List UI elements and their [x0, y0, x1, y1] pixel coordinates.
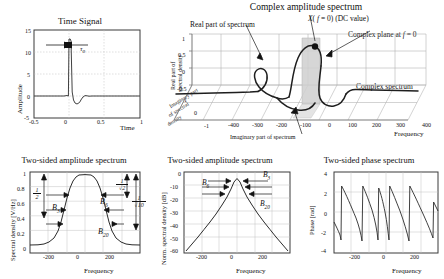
phase-ylabel: Phase [rad] — [308, 206, 315, 235]
amp-db-ylabel: Norm. spectral density [dB] — [160, 192, 167, 265]
time-signal-ytick: 5 — [27, 72, 30, 78]
amp-linear-ylabel: Spectral density [V/Hz] — [9, 199, 16, 261]
amp-db-ytick: -10 — [170, 184, 178, 190]
label-b20-db: B20 — [260, 199, 270, 210]
amp-linear-ytick: 0.4 — [17, 216, 25, 222]
complex-spectrum-plot — [174, 32, 444, 137]
time-signal-xtick: -0.5 — [29, 119, 39, 125]
panel-time-signal: Time Signal Amplitude Time 15 10 5 0 -5 … — [0, 14, 160, 140]
phase-ytick: 2 — [324, 191, 327, 197]
amp-linear-ytick: 0.2 — [17, 231, 25, 237]
time-signal-xtick: 0 — [64, 119, 67, 125]
tau-annotation — [46, 40, 96, 56]
amp-linear-ytick: 0 — [23, 246, 26, 252]
amp-linear-ytick: 1 — [23, 171, 26, 177]
label-b6-db: B6 — [202, 178, 209, 189]
amp-db-ytick: -30 — [170, 210, 178, 216]
phase-xtick: -200 — [349, 254, 360, 260]
amp-db-xlabel: Frequency — [236, 267, 266, 275]
panel-complex-spectrum: Complex amplitude spectrum Real part of … — [166, 0, 444, 146]
label-b3-db: B3 — [263, 170, 270, 181]
amp-db-xtick: 0 — [230, 254, 233, 260]
label-real-part: Real part of spectrum — [190, 20, 255, 29]
amp-linear-xtick: -200 — [43, 254, 54, 260]
phase-plot — [334, 172, 438, 253]
phase-ytick: -4 — [321, 248, 326, 254]
amp-linear-ytick: 0.6 — [17, 201, 25, 207]
amp-linear-ytick: 0.8 — [17, 186, 25, 192]
phase-xlabel: Frequency — [392, 267, 422, 275]
amp-db-xtick: -200 — [196, 254, 207, 260]
amp-db-ytick: -20 — [170, 197, 178, 203]
label-dc-value: X( f = 0) (DC value) — [308, 14, 369, 23]
time-signal-xtick: 0.5 — [97, 119, 105, 125]
complex-spectrum-title: Complex amplitude spectrum — [226, 2, 386, 12]
amp-db-plot — [184, 172, 290, 253]
label-half-fraction: 1 2 — [33, 187, 41, 200]
label-b6: B6 — [100, 197, 108, 208]
phase-ytick: 4 — [324, 171, 327, 177]
phase-title: Two-sided phase spectrum — [296, 155, 442, 165]
phase-ytick: -2 — [321, 230, 326, 236]
label-b3-level-fraction: 1 √2 — [116, 178, 128, 191]
amp-db-ytick: -60 — [170, 248, 178, 254]
tau-label: τ0 — [80, 45, 85, 54]
amp-db-title: Two-sided amplitude spectrum — [146, 155, 294, 165]
time-signal-ytick: 15 — [25, 28, 31, 34]
amp-linear-title: Two-sided amplitude spectrum — [2, 155, 146, 165]
time-signal-title: Time Signal — [20, 16, 140, 26]
time-signal-ylabel: Amplitude — [16, 84, 24, 114]
amp-db-xtick: 200 — [258, 254, 267, 260]
panel-phase: Two-sided phase spectrum Phase [rad] Fre… — [294, 155, 444, 279]
amp-linear-xlabel: Frequency — [84, 267, 114, 275]
phase-ytick: 0 — [324, 211, 327, 217]
panel-amplitude-db: Two-sided amplitude spectrum Norm. spect… — [148, 155, 294, 279]
amp-linear-xtick: 0 — [76, 254, 79, 260]
amp-db-ytick: -50 — [170, 236, 178, 242]
time-signal-ytick: 0 — [27, 94, 30, 100]
panel-amplitude-linear: Two-sided amplitude spectrum Spectral de… — [0, 155, 148, 279]
phase-xtick: 0 — [382, 254, 385, 260]
amp-linear-xtick: 200 — [105, 254, 114, 260]
time-signal-ytick: 10 — [25, 50, 31, 56]
time-signal-xlabel: Time — [120, 124, 135, 132]
label-b20-level-fraction: 1 √10 — [132, 195, 146, 208]
amp-db-ytick: -40 — [170, 223, 178, 229]
label-b3: B3 — [52, 203, 60, 214]
time-signal-xtick: 1 — [140, 119, 143, 125]
dc-value-marker — [312, 43, 318, 49]
phase-xtick: 200 — [410, 254, 419, 260]
amp-db-ytick: 0 — [178, 171, 181, 177]
label-b20: B20 — [98, 227, 108, 238]
